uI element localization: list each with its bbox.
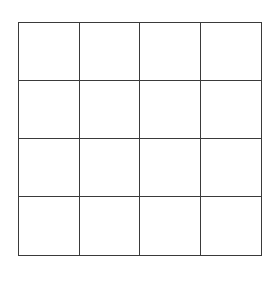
grid-cell-r3-c4 (201, 139, 262, 197)
grid-cell-r2-c2 (80, 81, 141, 139)
grid-cell-r3-c1 (19, 139, 80, 197)
grid-cell-r1-c1 (19, 23, 80, 81)
grid-4x4 (18, 22, 262, 256)
grid-cell-r1-c2 (80, 23, 141, 81)
grid-cell-r4-c4 (201, 197, 262, 255)
grid-cell-r3-c2 (80, 139, 141, 197)
grid-cell-r4-c3 (140, 197, 201, 255)
grid-cell-r4-c1 (19, 197, 80, 255)
grid-cell-r2-c1 (19, 81, 80, 139)
grid-cell-r2-c4 (201, 81, 262, 139)
grid-cell-r4-c2 (80, 197, 141, 255)
grid-cell-r3-c3 (140, 139, 201, 197)
grid-cell-r2-c3 (140, 81, 201, 139)
grid-cell-r1-c4 (201, 23, 262, 81)
grid-cell-r1-c3 (140, 23, 201, 81)
canvas (0, 0, 278, 296)
